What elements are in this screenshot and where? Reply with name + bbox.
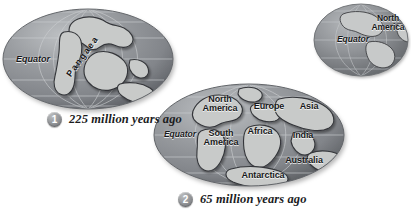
globe-separated: NorthAmerica Europe Asia Equator SouthAm… [153, 83, 349, 191]
caption-globe-pangaea: 1 225 million years ago [47, 112, 182, 127]
globe-pangaea-graphic [2, 8, 177, 114]
step-badge-2: 2 [178, 192, 193, 207]
globe-present-graphic [313, 2, 409, 78]
globe-separated-graphic [153, 83, 349, 191]
globe-pangaea: Equator Pangaea [2, 8, 177, 114]
caption-text-2: 65 million years ago [200, 192, 307, 207]
caption-text-1: 225 million years ago [69, 112, 182, 127]
caption-globe-separated: 2 65 million years ago [178, 192, 307, 207]
globe-present: North America Equator [313, 2, 409, 78]
step-badge-1: 1 [47, 112, 62, 127]
